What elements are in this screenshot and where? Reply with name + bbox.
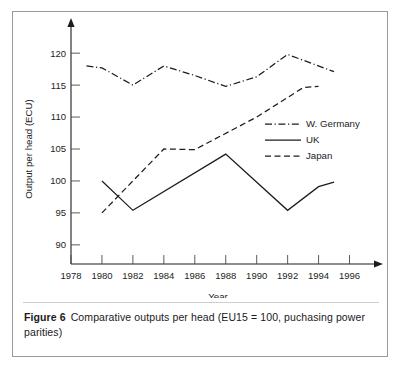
legend-label-w-germany: W. Germany <box>306 118 360 129</box>
series-line-uk <box>102 154 334 210</box>
x-tick-label: 1982 <box>122 270 143 281</box>
x-tick-label: 1992 <box>277 270 298 281</box>
y-axis-title: Output per head (ECU) <box>23 99 34 199</box>
legend-label-uk: UK <box>306 134 320 145</box>
figure-caption: Figure 6Comparative outputs per head (EU… <box>24 310 376 339</box>
y-tick-label: 115 <box>51 80 66 91</box>
figure-caption-text: Comparative outputs per head (EU15 = 100… <box>24 311 365 338</box>
line-chart: 9095100105110115120197819801982198419861… <box>13 12 389 298</box>
figure-label: Figure 6 <box>24 311 66 323</box>
x-tick-label: 1978 <box>60 270 81 281</box>
x-tick-label: 1986 <box>184 270 205 281</box>
y-tick-label: 120 <box>50 48 66 59</box>
x-axis-arrow-icon <box>374 260 383 267</box>
x-tick-label: 1980 <box>91 270 112 281</box>
x-tick-label: 1988 <box>215 270 236 281</box>
x-tick-label: 1996 <box>339 270 360 281</box>
x-tick-label: 1994 <box>308 270 329 281</box>
caption-divider <box>23 302 379 303</box>
y-tick-label: 95 <box>55 207 66 218</box>
series-line-w-germany <box>86 54 334 86</box>
series-line-japan <box>102 86 319 213</box>
figure-container: 9095100105110115120197819801982198419861… <box>12 11 388 357</box>
y-tick-label: 110 <box>51 111 66 122</box>
y-tick-label: 105 <box>50 143 66 154</box>
x-axis-title: Year <box>208 291 228 298</box>
legend-label-japan: Japan <box>306 150 332 161</box>
x-tick-label: 1984 <box>153 270 174 281</box>
x-tick-label: 1990 <box>246 270 267 281</box>
y-tick-label: 100 <box>50 175 66 186</box>
y-tick-label: 90 <box>55 239 66 250</box>
y-axis-arrow-icon <box>67 18 74 27</box>
chart-plot-area: 9095100105110115120197819801982198419861… <box>13 12 389 298</box>
